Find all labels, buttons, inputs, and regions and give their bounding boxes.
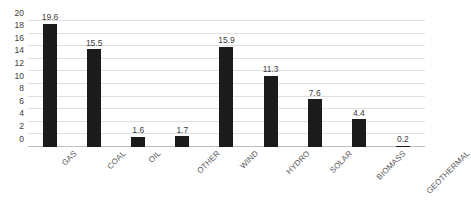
bar-group[interactable]: 7.6 bbox=[293, 21, 337, 147]
y-axis-tick-label: 12 bbox=[15, 59, 24, 68]
bar-value-label: 11.3 bbox=[263, 65, 279, 74]
x-axis-category-label: BIOMASS bbox=[375, 149, 408, 182]
y-axis-tick-label: 10 bbox=[15, 71, 24, 80]
y-axis-tick-label: 16 bbox=[15, 33, 24, 42]
y-axis-tick-label: 18 bbox=[15, 21, 24, 30]
bar-group[interactable]: 19.6 bbox=[28, 21, 72, 147]
bar-group[interactable]: 15.9 bbox=[204, 21, 248, 147]
x-axis-category-label: WIND bbox=[238, 149, 260, 171]
x-axis-category-labels: GASCOALOILOTHERWINDHYDROSOLARBIOMASSGEOT… bbox=[28, 149, 425, 206]
y-axis-tick-labels: 02468101214161820 bbox=[0, 21, 24, 147]
bar-value-label: 1.7 bbox=[176, 126, 188, 135]
bar[interactable] bbox=[352, 119, 366, 147]
y-axis-tick-label: 14 bbox=[15, 46, 24, 55]
bar-group[interactable]: 11.3 bbox=[249, 21, 293, 147]
bar-group[interactable]: 4.4 bbox=[337, 21, 381, 147]
bar[interactable] bbox=[396, 146, 410, 148]
bar-group[interactable]: 1.7 bbox=[160, 21, 204, 147]
bar-value-label: 15.5 bbox=[86, 39, 103, 48]
bar[interactable] bbox=[43, 24, 57, 147]
bar[interactable] bbox=[264, 76, 278, 147]
bar-group[interactable]: 1.6 bbox=[116, 21, 160, 147]
bar[interactable] bbox=[308, 99, 322, 147]
bar-value-label: 15.9 bbox=[218, 36, 235, 45]
bar-value-label: 7.6 bbox=[309, 89, 321, 98]
bar-series: 19.615.51.61.715.911.37.64.40.2 bbox=[28, 21, 425, 147]
y-axis-tick-label: 20 bbox=[15, 8, 24, 17]
x-axis-category-label: COAL bbox=[106, 149, 128, 171]
bar-value-label: 19.6 bbox=[42, 13, 59, 22]
x-axis-category-label: GEOTHERMAL bbox=[425, 149, 471, 196]
x-axis-category-label: OTHER bbox=[196, 149, 223, 176]
y-axis-tick-label: 0 bbox=[19, 134, 24, 143]
x-axis-category-label: SOLAR bbox=[328, 149, 354, 175]
bar-value-label: 4.4 bbox=[353, 109, 365, 118]
y-axis-tick-label: 8 bbox=[19, 84, 24, 93]
bar-group[interactable]: 0.2 bbox=[381, 21, 425, 147]
bar-value-label: 0.2 bbox=[397, 135, 409, 144]
bar-value-label: 1.6 bbox=[132, 126, 144, 135]
bar[interactable] bbox=[131, 137, 145, 147]
x-axis-category-label: OIL bbox=[147, 149, 163, 165]
bar[interactable] bbox=[87, 49, 101, 147]
x-axis-category-label: HYDRO bbox=[284, 149, 311, 176]
bar-group[interactable]: 15.5 bbox=[72, 21, 116, 147]
bar[interactable] bbox=[175, 136, 189, 147]
bar[interactable] bbox=[219, 47, 233, 147]
y-axis-tick-label: 6 bbox=[19, 96, 24, 105]
y-axis-tick-label: 2 bbox=[19, 122, 24, 131]
y-axis-tick-label: 4 bbox=[19, 109, 24, 118]
x-axis-category-label: GAS bbox=[60, 149, 79, 168]
